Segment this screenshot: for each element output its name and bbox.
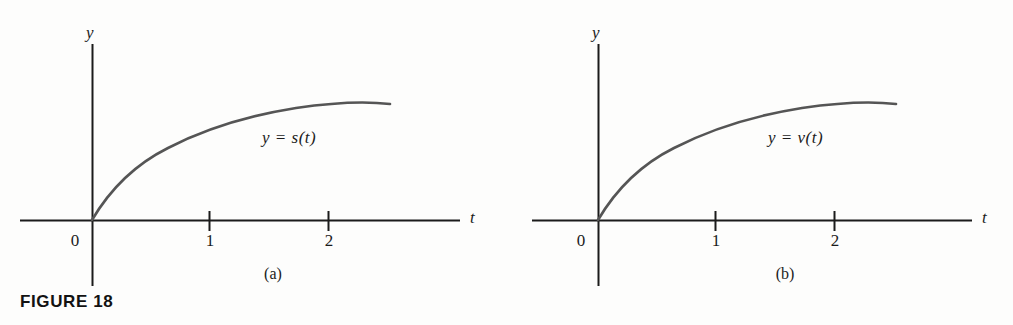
figure-18-container: y t 0 1 2 y = s(t) (a) y t 0 1 2 y = v(t…	[0, 0, 1013, 325]
curve-equation-label: y = s(t)	[262, 128, 316, 148]
x-tick-label-2: 2	[317, 232, 341, 249]
x-tick-label-2: 2	[823, 232, 847, 249]
x-axis-label: t	[470, 209, 475, 226]
curve-equation-label: y = v(t)	[768, 128, 823, 148]
plot-area-a	[0, 0, 506, 300]
curve-s-of-t	[92, 103, 390, 220]
x-tick-label-1: 1	[198, 232, 222, 249]
x-axis-label: t	[982, 209, 987, 226]
chart-panel-b: y t 0 1 2 y = v(t) (b)	[506, 0, 1012, 300]
panel-caption-a: (a)	[243, 265, 303, 283]
x-tick-label-0: 0	[63, 232, 87, 249]
y-axis-label: y	[592, 24, 600, 41]
figure-caption: FIGURE 18	[20, 292, 113, 312]
curve-v-of-t	[598, 103, 896, 220]
chart-panel-a: y t 0 1 2 y = s(t) (a)	[0, 0, 506, 300]
x-tick-label-1: 1	[704, 232, 728, 249]
y-axis-label: y	[86, 24, 94, 41]
x-tick-label-0: 0	[569, 232, 593, 249]
plot-area-b	[506, 0, 1013, 300]
panel-caption-b: (b)	[755, 265, 815, 283]
